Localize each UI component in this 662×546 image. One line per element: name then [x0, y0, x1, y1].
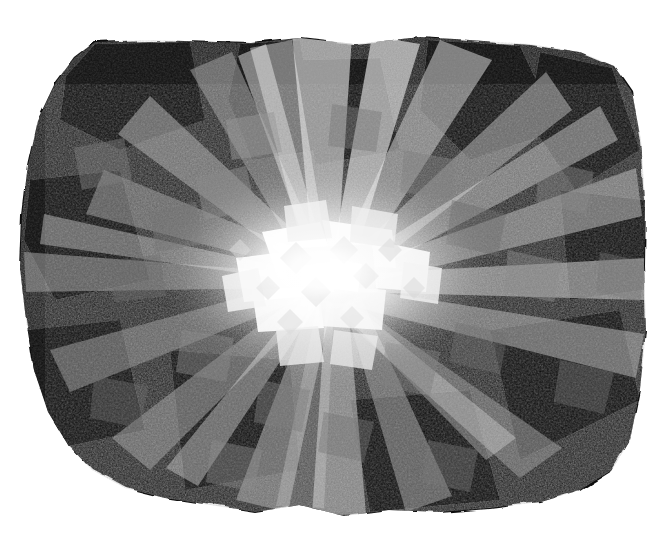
collage-canvas: [0, 0, 662, 546]
grain-overlay: [0, 0, 662, 546]
collage-artboard: Radial Paper Collage torn paper collage …: [0, 0, 662, 546]
